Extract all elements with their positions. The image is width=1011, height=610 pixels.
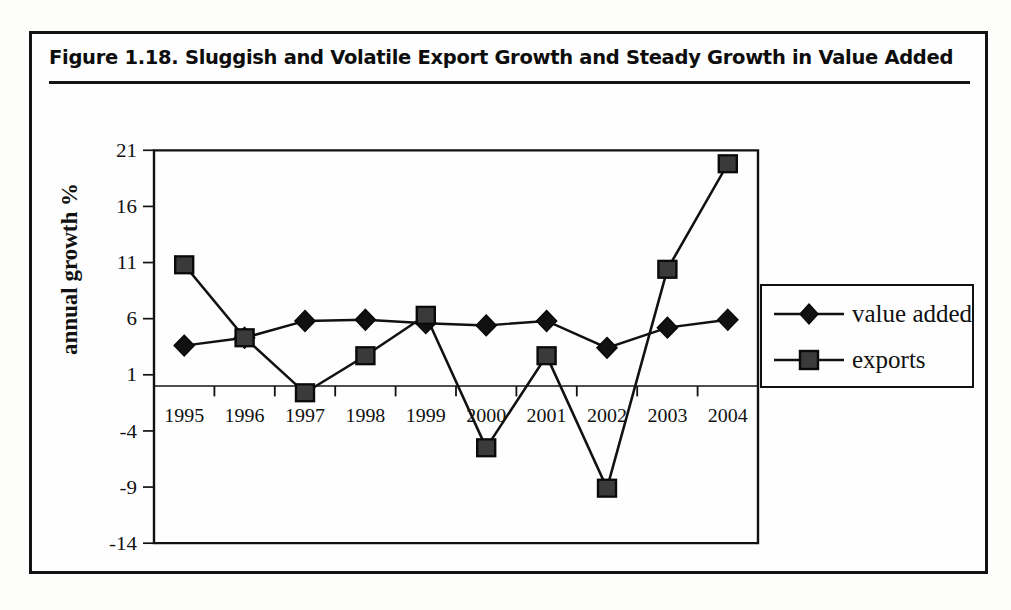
data-point-exports-2000[interactable] bbox=[477, 439, 495, 456]
data-point-exports-2004[interactable] bbox=[719, 155, 737, 172]
y-tick-label: 1 bbox=[127, 364, 137, 385]
y-tick-label: 21 bbox=[116, 139, 137, 160]
x-tick-label: 1995 bbox=[164, 405, 204, 425]
data-point-value-added-1998[interactable] bbox=[355, 309, 375, 330]
data-point-exports-2002[interactable] bbox=[598, 480, 616, 497]
data-point-exports-1995[interactable] bbox=[175, 256, 193, 273]
x-tick-label: 1996 bbox=[225, 405, 265, 425]
y-tick-label: 16 bbox=[116, 196, 137, 217]
line-chart: 21161161-4-9-141995199619971998199920002… bbox=[72, 92, 792, 562]
x-tick-label: 1997 bbox=[285, 405, 325, 425]
data-point-value-added-2000[interactable] bbox=[476, 315, 496, 336]
y-tick-label: -14 bbox=[109, 532, 137, 553]
plot-area-wrapper: annual growth % 21161161-4-9-14199519961… bbox=[32, 34, 991, 577]
x-tick-label: 1999 bbox=[406, 405, 446, 425]
legend-item-exports[interactable]: exports bbox=[762, 338, 972, 382]
data-point-value-added-1997[interactable] bbox=[295, 311, 315, 332]
data-point-value-added-2004[interactable] bbox=[718, 309, 738, 330]
x-tick-label: 2004 bbox=[708, 405, 748, 425]
diamond-marker-icon bbox=[772, 301, 846, 327]
data-point-value-added-2003[interactable] bbox=[657, 317, 677, 338]
x-tick-label: 2002 bbox=[587, 405, 627, 425]
figure-frame: Figure 1.18. Sluggish and Volatile Expor… bbox=[29, 31, 988, 574]
x-tick-label: 2001 bbox=[527, 405, 567, 425]
square-marker-icon bbox=[772, 347, 846, 373]
y-tick-label: 6 bbox=[127, 308, 137, 329]
legend-label-value-added: value added bbox=[852, 300, 972, 328]
scanned-page: Figure 1.18. Sluggish and Volatile Expor… bbox=[0, 0, 1011, 610]
data-point-exports-2003[interactable] bbox=[658, 261, 676, 278]
chart-legend: value added exports bbox=[760, 284, 974, 388]
y-tick-label: -4 bbox=[120, 420, 137, 441]
data-point-value-added-2002[interactable] bbox=[597, 338, 617, 359]
data-point-exports-1999[interactable] bbox=[417, 307, 435, 324]
y-tick-label: -9 bbox=[120, 476, 137, 497]
x-tick-label: 1998 bbox=[345, 405, 385, 425]
data-point-value-added-1995[interactable] bbox=[174, 335, 194, 356]
series-line-exports bbox=[184, 164, 728, 488]
data-point-exports-1998[interactable] bbox=[356, 347, 374, 364]
data-point-exports-1997[interactable] bbox=[296, 384, 314, 401]
legend-label-exports: exports bbox=[852, 346, 926, 374]
x-tick-label: 2003 bbox=[647, 405, 687, 425]
data-point-exports-1996[interactable] bbox=[236, 329, 254, 346]
legend-item-value-added[interactable]: value added bbox=[762, 292, 972, 336]
data-point-value-added-2001[interactable] bbox=[537, 311, 557, 332]
y-tick-label: 11 bbox=[117, 252, 137, 273]
data-point-exports-2001[interactable] bbox=[538, 347, 556, 364]
